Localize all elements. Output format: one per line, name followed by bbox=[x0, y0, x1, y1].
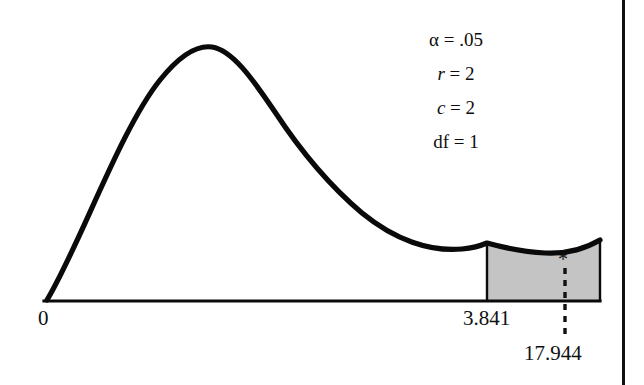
annotation-degrees-of-freedom: df = 1 bbox=[386, 132, 526, 151]
rows-symbol: r bbox=[437, 63, 444, 84]
axis-label-critical-value: 3.841 bbox=[463, 306, 510, 331]
parameter-annotations: α = .05 r = 2 c = 2 df = 1 bbox=[386, 30, 526, 151]
axis-label-observed-value: 17.944 bbox=[524, 341, 582, 366]
page-edge-rule bbox=[622, 0, 625, 385]
observed-statistic-asterisk-icon: * bbox=[558, 248, 568, 271]
chi-square-curve-plot bbox=[0, 0, 644, 385]
columns-value: = 2 bbox=[445, 97, 475, 118]
alpha-value: = .05 bbox=[439, 29, 483, 50]
annotation-rows: r = 2 bbox=[386, 64, 526, 83]
df-symbol: df bbox=[433, 131, 449, 152]
annotation-alpha: α = .05 bbox=[386, 30, 526, 49]
annotation-columns: c = 2 bbox=[386, 98, 526, 117]
alpha-symbol: α bbox=[429, 29, 439, 50]
chi-square-distribution-figure: * α = .05 r = 2 c = 2 df = 1 0 3.841 17.… bbox=[0, 0, 644, 385]
rows-value: = 2 bbox=[445, 63, 475, 84]
axis-label-origin: 0 bbox=[38, 306, 49, 331]
df-value: = 1 bbox=[449, 131, 479, 152]
